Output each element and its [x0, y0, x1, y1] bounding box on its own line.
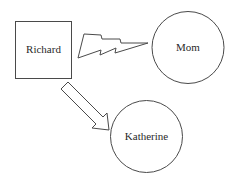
katherine-label: Katherine: [125, 130, 168, 142]
lightning-bolt-icon: [78, 34, 148, 58]
node-katherine: Katherine: [111, 101, 183, 173]
richard-label: Richard: [26, 43, 61, 55]
genogram-diagram: Richard Mom Katherine: [0, 0, 237, 186]
mom-label: Mom: [176, 41, 200, 53]
node-richard: Richard: [16, 22, 72, 79]
arrow-icon: [61, 82, 109, 130]
node-mom: Mom: [152, 12, 224, 84]
